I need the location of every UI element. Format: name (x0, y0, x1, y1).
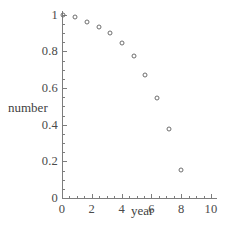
x-minor-tick (166, 196, 167, 198)
y-tick (63, 161, 67, 162)
x-axis-line (62, 198, 217, 199)
x-minor-tick (137, 196, 138, 198)
x-minor-tick (189, 196, 190, 198)
x-minor-tick (204, 196, 205, 198)
data-point (179, 167, 184, 172)
x-minor-tick (159, 196, 160, 198)
y-minor-tick (63, 134, 65, 135)
x-tick (151, 194, 152, 198)
y-minor-tick (63, 116, 65, 117)
y-minor-tick (63, 70, 65, 71)
x-tick-label: 8 (178, 202, 184, 217)
y-minor-tick (63, 180, 65, 181)
x-tick (122, 194, 123, 198)
x-tick-label: 4 (118, 202, 124, 217)
y-axis-title: number (8, 100, 48, 116)
x-minor-tick (99, 196, 100, 198)
x-minor-tick (77, 196, 78, 198)
x-minor-tick (114, 196, 115, 198)
x-axis-title: year (131, 203, 153, 219)
y-minor-tick (63, 24, 65, 25)
y-tick-label: 0.2 (42, 154, 58, 169)
x-minor-tick (129, 196, 130, 198)
x-tick-label: 2 (89, 202, 95, 217)
y-minor-tick (63, 171, 65, 172)
x-tick (92, 194, 93, 198)
y-minor-tick (63, 152, 65, 153)
y-minor-tick (63, 143, 65, 144)
y-tick-label: 0.8 (42, 44, 58, 59)
y-tick (63, 88, 67, 89)
x-minor-tick (196, 196, 197, 198)
y-tick (63, 51, 67, 52)
data-point (143, 73, 148, 78)
y-tick-label: 0.6 (42, 81, 58, 96)
y-minor-tick (63, 106, 65, 107)
y-minor-tick (63, 189, 65, 190)
y-minor-tick (63, 33, 65, 34)
y-tick-label: 0 (52, 191, 58, 206)
data-point (72, 15, 77, 20)
x-minor-tick (69, 196, 70, 198)
data-point (84, 20, 89, 25)
y-minor-tick (63, 97, 65, 98)
y-tick-label: 1 (52, 7, 58, 22)
data-point (96, 24, 101, 29)
x-minor-tick (144, 196, 145, 198)
x-tick (211, 194, 212, 198)
data-point (107, 31, 112, 36)
x-tick-label: 0 (59, 202, 65, 217)
y-tick-label: 0.4 (42, 117, 58, 132)
x-tick (181, 194, 182, 198)
x-minor-tick (174, 196, 175, 198)
y-minor-tick (63, 42, 65, 43)
data-point (119, 41, 124, 46)
data-point (60, 12, 65, 17)
x-minor-tick (107, 196, 108, 198)
data-point (131, 53, 136, 58)
x-tick-label: 10 (205, 202, 218, 217)
x-minor-tick (84, 196, 85, 198)
scatter-plot: 00.20.40.60.81 0246810 number year (0, 0, 230, 229)
y-tick (63, 125, 67, 126)
data-point (155, 96, 160, 101)
y-minor-tick (63, 61, 65, 62)
y-minor-tick (63, 79, 65, 80)
data-point (167, 127, 172, 132)
